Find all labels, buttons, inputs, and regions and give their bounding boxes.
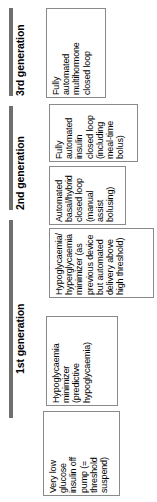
stage-line: multihormone — [71, 42, 81, 95]
stage-line: Hypoglycaemia/ — [54, 233, 64, 295]
stage-line: Fully — [54, 141, 64, 159]
stage-line: automated — [64, 118, 74, 159]
stage-line: high threshold) — [115, 238, 125, 295]
stage-box-automated-basal-hybrid-closed-loop[interactable]: Automated basal/hybrid closed loop (manu… — [49, 166, 126, 225]
stage-line: pump (= — [79, 461, 89, 493]
stage-box-fully-automated-multihormone-closed-loop[interactable]: Fully automated multihormone closed loop — [46, 8, 106, 98]
stage-line: but automated — [95, 239, 105, 295]
stage-line: (manual — [85, 191, 95, 222]
generation-bar-2nd — [9, 106, 13, 210]
generation-bar-3rd — [9, 8, 13, 96]
generation-label-3rd: 3rd generation — [14, 24, 26, 96]
stage-box-hypoglycaemia-minimizer[interactable]: Hypoglycaemia minimizer (predictive hypo… — [46, 316, 118, 406]
stage-line: hypoglycaemia) — [82, 342, 92, 403]
stage-line: minimizer (as — [74, 243, 84, 295]
stage-line: minimizer — [61, 366, 71, 403]
generation-label-1st: 1st generation — [14, 304, 26, 374]
stage-line: previous device — [85, 235, 95, 295]
stage-line: glucose — [58, 463, 68, 493]
stage-line: (including — [95, 122, 105, 159]
stage-line: closed loop — [82, 51, 92, 95]
stage-box-very-low-glucose-insulin-off-pump[interactable]: Very low glucose insulin off pump (= thr… — [43, 411, 120, 496]
stage-line: threshold — [89, 457, 99, 493]
stage-line: basal/hybrid — [64, 175, 74, 222]
stage-box-fully-automated-insulin-closed-loop[interactable]: Fully automated insulin closed loop (inc… — [49, 104, 138, 162]
stage-line: delivery above — [105, 239, 115, 295]
stage-line: automated — [61, 54, 71, 95]
stage-line: hyperglycaemia — [64, 234, 74, 295]
stage-line: insulin — [74, 135, 84, 159]
generation-label-2nd: 2nd generation — [14, 136, 26, 210]
stage-line: meal-time — [105, 121, 115, 159]
stage-line: Hypoglycaemia — [51, 343, 61, 403]
stage-line: bolusing) — [105, 187, 115, 222]
stage-line: bolus) — [115, 135, 125, 159]
stage-line: Automated — [54, 180, 64, 222]
stage-box-hypo-hyperglycaemia-minimizer[interactable]: Hypoglycaemia/ hyperglycaemia minimizer … — [49, 228, 154, 298]
stage-line: assist — [95, 200, 105, 222]
stage-line: insulin off — [68, 457, 78, 493]
stage-line: Very low — [48, 460, 58, 493]
generation-bar-1st — [9, 220, 13, 418]
stage-line: closed loop — [85, 115, 95, 159]
stage-line: closed loop — [74, 178, 84, 222]
stage-line: Fully — [51, 77, 61, 95]
stage-line: (predictive — [71, 363, 81, 403]
generations-timeline-figure: 3rd generation Fully automated multihorm… — [0, 0, 157, 502]
stage-line: suspend) — [99, 457, 109, 493]
